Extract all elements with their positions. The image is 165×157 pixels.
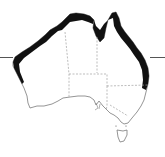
mainland-outline (13, 12, 149, 124)
australia-map (0, 0, 165, 157)
tasmania-outline (117, 130, 127, 142)
bass-strait-island (125, 125, 126, 126)
bass-strait-island (115, 125, 116, 126)
